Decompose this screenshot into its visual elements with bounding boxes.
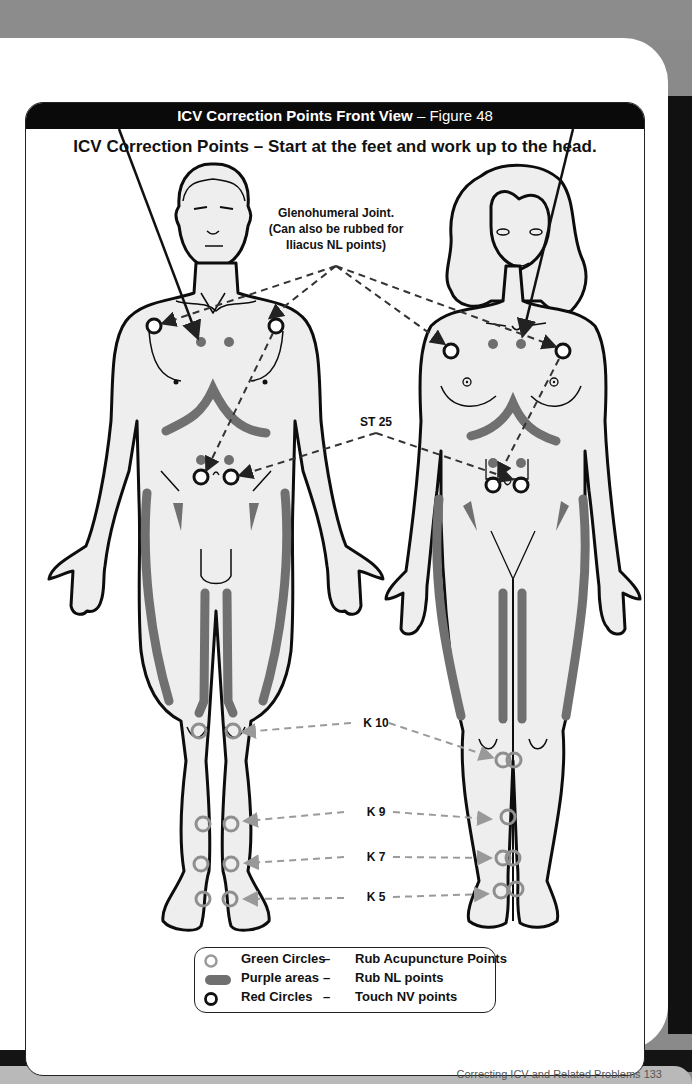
legend-dash: – bbox=[323, 970, 330, 985]
grey-ring-icon bbox=[203, 954, 233, 968]
page: ICV Correction Points Front View – Figur… bbox=[0, 38, 668, 1050]
page-right-edge bbox=[668, 96, 692, 1034]
glenohumeral-label-line2: (Can also be rubbed for bbox=[266, 221, 406, 237]
figure-panel: ICV Correction Points Front View – Figur… bbox=[25, 102, 645, 1076]
k5-label: K 5 bbox=[356, 889, 396, 905]
st25-label: ST 25 bbox=[356, 414, 396, 430]
legend-desc: Touch NV points bbox=[355, 989, 457, 1004]
black-ring-icon bbox=[203, 992, 233, 1006]
legend-dash: – bbox=[323, 951, 330, 966]
page-footer: Correcting ICV and Related Problems 133 bbox=[457, 1068, 662, 1080]
legend-desc: Rub Acupuncture Points bbox=[355, 951, 507, 966]
grey-bar-icon bbox=[203, 973, 233, 987]
glenohumeral-label-line3: Iliacus NL points) bbox=[266, 237, 406, 253]
legend-name: Red Circles bbox=[241, 989, 313, 1004]
page-top-band bbox=[0, 0, 692, 40]
male-figure bbox=[49, 164, 383, 930]
glenohumeral-label-line1: Glenohumeral Joint. bbox=[266, 205, 406, 221]
legend-desc: Rub NL points bbox=[355, 970, 444, 985]
legend-dash: – bbox=[323, 989, 330, 1004]
legend: Green Circles – Rub Acupuncture Points P… bbox=[194, 947, 496, 1013]
glenohumeral-label: Glenohumeral Joint. (Can also be rubbed … bbox=[266, 205, 406, 253]
k10-label: K 10 bbox=[356, 715, 396, 731]
k9-label: K 9 bbox=[356, 804, 396, 820]
legend-name: Green Circles bbox=[241, 951, 326, 966]
legend-name: Purple areas bbox=[241, 970, 319, 985]
k7-label: K 7 bbox=[356, 849, 396, 865]
